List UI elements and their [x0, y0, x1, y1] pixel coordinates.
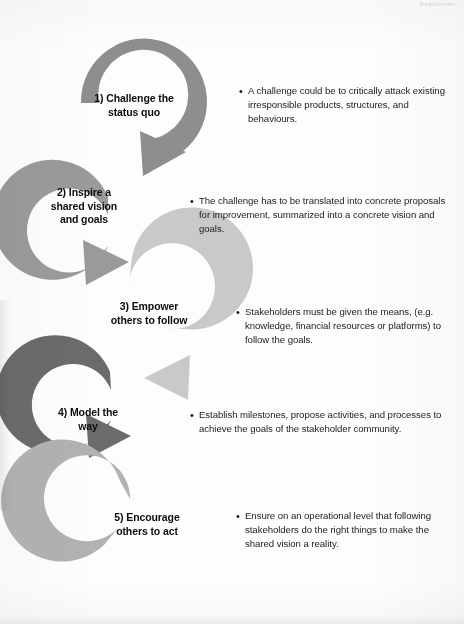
bullet-dot-icon: • [236, 305, 245, 319]
step-5-bullet: • Ensure on an operational level that fo… [236, 509, 458, 552]
step-2-bullet-text: The challenge has to be translated into … [199, 194, 452, 237]
bullet-dot-icon: • [190, 408, 199, 422]
diagram-page: Reaktionen 1) Challenge the status quo 2… [0, 0, 464, 624]
step-3-arrowhead [144, 355, 190, 400]
step-1-bullet: • A challenge could be to critically att… [239, 84, 455, 127]
step-5-label: 5) Encourage others to act [88, 511, 206, 538]
step-1-label: 1) Challenge the status quo [76, 92, 192, 119]
step-4-bullet-text: Establish milestones, propose activities… [199, 408, 452, 436]
step-5-bullet-text: Ensure on an operational level that foll… [245, 509, 458, 552]
bullet-dot-icon: • [236, 509, 245, 523]
step-5-arc [1, 440, 130, 562]
step-5-arc-band [1, 440, 130, 562]
step-2-arrowhead [83, 240, 129, 285]
step-3-bullet-text: Stakeholders must be given the means, (e… [245, 305, 456, 348]
bullet-dot-icon: • [239, 84, 248, 98]
step-4-arc [0, 335, 131, 458]
step-2-bullet: • The challenge has to be translated int… [190, 194, 452, 237]
step-4-label: 4) Model the way [32, 406, 144, 433]
step-4-bullet: • Establish milestones, propose activiti… [190, 408, 452, 436]
step-2-label: 2) Inspire a shared vision and goals [28, 186, 140, 227]
bullet-dot-icon: • [190, 194, 199, 208]
step-1-bullet-text: A challenge could be to critically attac… [248, 84, 455, 127]
step-3-label: 3) Empower others to follow [88, 300, 210, 327]
step-3-bullet: • Stakeholders must be given the means, … [236, 305, 456, 348]
